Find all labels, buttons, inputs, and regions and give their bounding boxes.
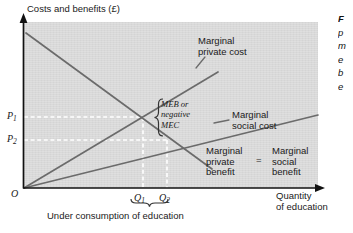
caption-line-3: m [338,39,353,53]
label-marginal-social-benefit: Marginal social benefit [272,146,320,178]
caption-line-1: F [338,12,353,26]
y-axis-title: Costs and benefits (£) [27,4,120,15]
label-equals-sign: = [256,155,262,166]
label-marginal-private-cost: Marginal private cost [198,36,284,57]
origin-label: O [11,188,18,199]
label-marginal-social-cost: Marginal social cost [232,110,302,131]
caption-line-4: e [338,53,353,67]
leader-mpc [196,57,205,68]
chart-figure: Costs and benefits (£) Quantity of educa… [0,0,353,233]
leader-msc [214,120,229,123]
mpc-line1: Marginal [198,35,234,46]
x-axis-title-line1: Quantity [276,190,311,201]
side-caption-clipped: F p m e b e [338,12,353,98]
caption-line-2: p [338,26,353,40]
y-tick-label-p2: P2 [7,133,17,146]
caption-line-6: e [338,80,353,94]
label-meb-mec: MEB or negative MEC [161,99,209,130]
label-marginal-private-benefit: Marginal private benefit [206,146,254,178]
msb-line3: benefit [272,166,301,177]
msb-line2: social [272,156,296,167]
mpb-line1: Marginal [206,145,242,156]
msb-line1: Marginal [272,145,308,156]
x-axis-title-line2: of education [276,201,328,212]
mpc-line2: private cost [198,46,247,57]
meb-or: or [179,99,189,109]
x-tick-label-q2: Q2 [159,192,170,205]
p2-subscript: 2 [13,137,17,146]
q1-subscript: 1 [141,196,145,205]
mpb-line2: private [206,156,235,167]
meb-abbrev: MEB [161,99,179,109]
caption-line-5: b [338,66,353,80]
mpb-line3: benefit [206,166,235,177]
mec-abbrev: MEC [161,120,179,130]
y-tick-label-p1: P1 [7,110,17,123]
meb-negative: negative [161,109,190,119]
annotation-under-consumption: Under consumption of education [47,211,184,222]
x-tick-label-q1: Q1 [134,192,145,205]
q2-subscript: 2 [166,196,170,205]
p1-subscript: 1 [13,114,17,123]
curve-marginal-private-cost [24,72,218,188]
x-axis-title: Quantity of education [276,190,328,212]
msc-line2: social cost [232,120,276,131]
msc-line1: Marginal [232,109,268,120]
gridlines [24,117,167,188]
